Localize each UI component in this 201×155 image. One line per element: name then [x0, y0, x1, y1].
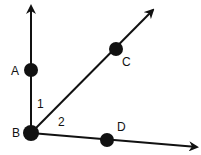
angle-label-2: 2	[58, 115, 65, 129]
label-b: B	[12, 126, 20, 140]
ray-bc	[31, 10, 153, 133]
label-d: D	[117, 120, 126, 134]
point-d	[100, 133, 114, 147]
angle-label-1: 1	[37, 97, 44, 111]
point-c	[109, 42, 123, 56]
label-c: C	[122, 55, 131, 69]
vertex-b	[23, 125, 39, 141]
angle-diagram: A C D B 1 2	[0, 0, 201, 155]
label-a: A	[11, 64, 19, 78]
point-a	[24, 63, 38, 77]
